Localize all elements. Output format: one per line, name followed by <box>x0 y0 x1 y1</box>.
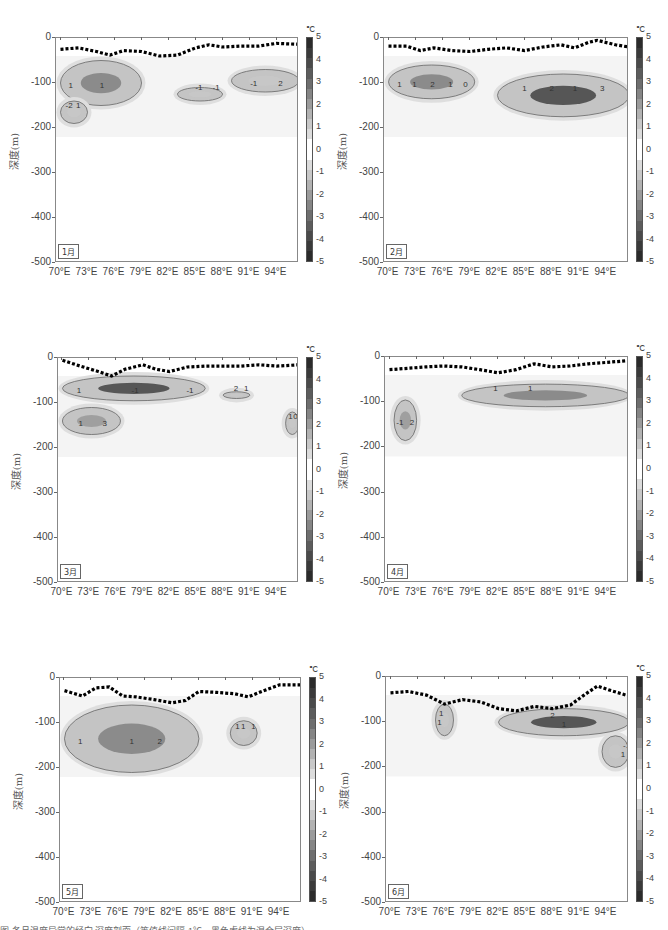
x-tick-mark <box>471 676 472 679</box>
contour-label: 1 <box>251 722 256 731</box>
y-tick-label: -200 <box>350 440 380 451</box>
colorbar-step <box>307 368 312 378</box>
colorbar-step <box>637 241 642 251</box>
contour-label: 2 <box>410 418 415 427</box>
colorbar-step <box>637 388 642 398</box>
figure-caption: 图 各月温度异常的经向-深度剖面（等值线间隔 1℃，黑色虚线为混合层深度） <box>0 924 668 930</box>
colorbar-step <box>637 99 642 109</box>
y-tick-mark <box>54 402 57 403</box>
anomaly-core <box>230 394 243 397</box>
x-tick-mark <box>222 37 223 40</box>
colorbar-step <box>307 409 312 419</box>
colorbar-tick-label: 4 <box>319 694 324 704</box>
mixed-layer-depth-line <box>61 43 299 56</box>
contour-label: -1 <box>213 83 221 92</box>
colorbar-tick-label: -4 <box>646 873 654 883</box>
colorbar <box>309 677 316 902</box>
colorbar-step <box>307 429 312 439</box>
heatmap-svg: 1231-1110-1 <box>58 358 298 582</box>
month-label: 5月 <box>62 884 83 899</box>
y-tick-mark <box>381 582 384 583</box>
x-tick-mark <box>443 356 444 359</box>
month-label: 1月 <box>58 244 79 259</box>
colorbar-step <box>310 810 315 820</box>
y-tick-mark <box>52 82 55 83</box>
x-tick-label: 94°E <box>588 266 622 277</box>
colorbar-tick-label: -5 <box>646 576 654 586</box>
colorbar-step <box>637 677 642 687</box>
x-tick-mark <box>525 676 526 679</box>
y-tick-label: -300 <box>350 486 380 497</box>
x-tick-mark <box>551 37 552 40</box>
colorbar-step <box>307 378 312 388</box>
colorbar-step <box>310 850 315 860</box>
contour-label: 0 <box>463 80 468 89</box>
colorbar-step <box>310 871 315 881</box>
colorbar-step <box>637 779 642 789</box>
colorbar-step <box>307 510 312 520</box>
contour-label: -1 <box>195 83 203 92</box>
colorbar-tick-label: 5 <box>646 350 651 360</box>
anomaly-core <box>530 86 596 105</box>
colorbar-step <box>637 367 642 377</box>
colorbar <box>636 356 643 582</box>
colorbar-step <box>637 357 642 367</box>
mixed-layer-depth-line <box>63 360 299 376</box>
colorbar-step <box>310 881 315 891</box>
x-tick-label: 94°E <box>262 906 296 917</box>
colorbar-tick-label: 1 <box>646 121 651 131</box>
x-tick-mark <box>497 356 498 359</box>
contour-label: 1 <box>77 386 82 395</box>
x-tick-mark <box>579 676 580 679</box>
colorbar-tick-label: 3 <box>646 76 651 86</box>
colorbar-tick-label: 3 <box>316 76 321 86</box>
colorbar-unit: ℃ <box>306 25 315 34</box>
mixed-layer-depth-line <box>390 361 629 373</box>
y-tick-mark <box>382 766 385 767</box>
y-tick-mark <box>52 172 55 173</box>
y-tick-mark <box>380 127 383 128</box>
colorbar-step <box>637 449 642 459</box>
colorbar <box>636 37 643 262</box>
heatmap-svg: -1121 <box>385 357 628 582</box>
colorbar-tick-label: 0 <box>316 144 321 154</box>
contour-label: 2 <box>234 384 239 393</box>
colorbar-tick-label: 0 <box>646 463 651 473</box>
colorbar-step <box>310 861 315 871</box>
y-tick-label: -400 <box>349 211 379 222</box>
colorbar-step <box>310 779 315 789</box>
colorbar-step <box>637 748 642 758</box>
x-tick-mark <box>415 37 416 40</box>
y-tick-mark <box>52 217 55 218</box>
colorbar-step <box>307 520 312 530</box>
y-tick-mark <box>381 446 384 447</box>
colorbar-tick-label: 3 <box>316 396 321 406</box>
colorbar-tick-label: -3 <box>646 531 654 541</box>
x-tick-mark <box>63 677 64 680</box>
anomaly-core <box>504 390 588 400</box>
colorbar-tick-label: 1 <box>316 441 321 451</box>
x-tick-mark <box>470 356 471 359</box>
colorbar-step <box>637 190 642 200</box>
colorbar-step <box>637 469 642 479</box>
colorbar-step <box>637 840 642 850</box>
colorbar-step <box>307 68 312 78</box>
y-tick-label: -200 <box>21 121 51 132</box>
colorbar-unit: ℃ <box>636 25 645 34</box>
contour-label: -2 <box>66 101 74 110</box>
x-tick-mark <box>388 37 389 40</box>
colorbar-tick-label: -1 <box>646 806 654 816</box>
contour-label: 1 <box>562 720 567 729</box>
x-tick-mark <box>249 357 250 360</box>
x-tick-mark <box>169 357 170 360</box>
x-tick-mark <box>114 37 115 40</box>
x-tick-mark <box>276 37 277 40</box>
y-tick-label: -400 <box>25 851 55 862</box>
mixed-layer-depth-line <box>389 40 629 51</box>
colorbar-tick-label: -1 <box>316 486 324 496</box>
y-tick-label: -400 <box>23 531 53 542</box>
month-label: 6月 <box>388 884 409 899</box>
colorbar-step <box>307 231 312 241</box>
colorbar-step <box>307 221 312 231</box>
colorbar-step <box>637 571 642 581</box>
